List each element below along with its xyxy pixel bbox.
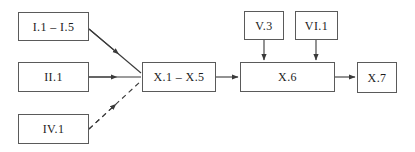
edge-iv1-to-x1x5 <box>89 81 141 129</box>
node-vi1: VI.1 <box>295 11 338 40</box>
node-label: V.3 <box>255 20 272 32</box>
node-x7: X.7 <box>357 62 397 93</box>
node-i1-i5: I.1 – I.5 <box>18 12 89 41</box>
node-label: X.1 – X.5 <box>154 71 205 83</box>
node-label: I.1 – I.5 <box>33 21 75 33</box>
flowchart-diagram: I.1 – I.5 II.1 IV.1 X.1 – X.5 V.3 VI.1 X… <box>0 0 415 152</box>
node-label: II.1 <box>44 71 63 83</box>
node-x1-x5: X.1 – X.5 <box>142 62 216 92</box>
node-label: X.6 <box>278 71 297 83</box>
node-iv1: IV.1 <box>18 114 89 144</box>
node-x6: X.6 <box>240 62 335 92</box>
node-label: X.7 <box>368 72 387 84</box>
node-v3: V.3 <box>244 11 284 40</box>
node-ii1: II.1 <box>18 62 89 92</box>
node-label: IV.1 <box>43 123 65 135</box>
node-label: VI.1 <box>305 20 328 32</box>
edge-i1i5-to-x1x5 <box>89 29 141 73</box>
